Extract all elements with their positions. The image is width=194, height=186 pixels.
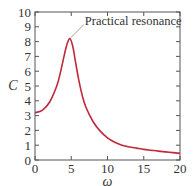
response-curve [35, 39, 180, 154]
x-tick-label: 0 [32, 161, 39, 176]
x-tick-label: 5 [68, 161, 75, 176]
y-tick-label: 0 [25, 153, 32, 168]
annotation-practical-resonance: Practical resonance [85, 14, 182, 28]
y-tick-label: 8 [25, 34, 32, 49]
y-tick-label: 1 [25, 138, 32, 153]
y-tick-label: 4 [25, 93, 32, 108]
axis-ticks: 05101520012345678910 [18, 5, 187, 177]
y-axis-label: C [8, 78, 18, 93]
y-tick-label: 5 [25, 79, 32, 94]
y-tick-label: 9 [25, 19, 32, 34]
annotation-leader-line [71, 25, 84, 38]
y-tick-label: 10 [18, 5, 31, 20]
y-tick-label: 2 [25, 123, 32, 138]
x-axis-label: ω [103, 174, 113, 186]
x-tick-label: 20 [174, 161, 187, 176]
y-tick-label: 3 [25, 108, 32, 123]
y-tick-label: 6 [25, 64, 32, 79]
x-tick-label: 15 [137, 161, 150, 176]
resonance-chart: 05101520012345678910 Practical resonance… [0, 0, 194, 186]
y-tick-label: 7 [25, 49, 32, 64]
